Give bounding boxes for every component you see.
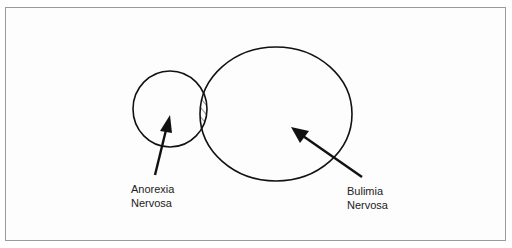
bulimia-circle [200, 47, 352, 181]
bulimia-label-line1: Bulimia [347, 184, 388, 198]
anorexia-circle [133, 71, 207, 147]
anorexia-label: Anorexia Nervosa [131, 182, 174, 210]
bulimia-label-line2: Nervosa [347, 198, 388, 212]
anorexia-label-line1: Anorexia [131, 182, 174, 196]
anorexia-label-line2: Nervosa [131, 196, 174, 210]
venn-diagram [0, 0, 512, 248]
bulimia-arrow-icon [291, 127, 362, 177]
bulimia-label: Bulimia Nervosa [347, 184, 388, 212]
